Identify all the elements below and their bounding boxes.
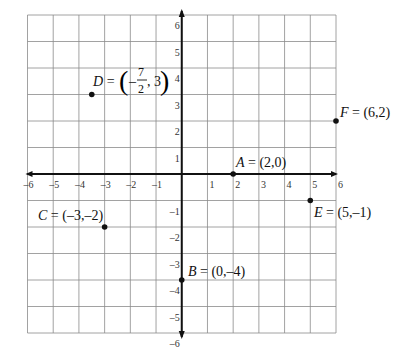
axes [26, 9, 339, 339]
y-tick-label: 3 [175, 100, 180, 111]
paren-close: ) [160, 65, 169, 96]
x-tick-label: –5 [48, 179, 59, 190]
y-tick-label: –6 [169, 338, 180, 349]
paren-open: ( [119, 65, 128, 96]
fraction-denominator: 2 [138, 82, 144, 96]
y-tick-label: 4 [175, 73, 180, 84]
label-point-f: F = (6,2) [339, 105, 391, 121]
y-tick-label: –3 [169, 259, 180, 270]
y-tick-label: –5 [169, 312, 180, 323]
point-a [230, 171, 236, 177]
x-tick-label: 2 [235, 179, 240, 190]
coordinate-plane: –6–5–4–3–2–1123456654321–1–2–3–4–5–6 A =… [0, 0, 407, 350]
x-tick-label: –1 [151, 179, 162, 190]
label-point-e: E = (5,–1) [313, 205, 372, 221]
y-axis-arrow-up-icon [179, 9, 185, 17]
x-axis-arrow-left-icon [26, 171, 33, 177]
x-tick-label: –6 [23, 179, 34, 190]
y-tick-label: 5 [175, 47, 180, 58]
label-point-c: C = (–3,–2) [38, 208, 103, 224]
y-tick-label: 2 [175, 126, 180, 137]
point-f [333, 118, 339, 124]
x-tick-label: –4 [74, 179, 85, 190]
x-tick-label: 5 [312, 179, 317, 190]
y-tick-label: 1 [175, 153, 180, 164]
y-value: , 3 [147, 74, 161, 89]
point-e [307, 198, 313, 204]
x-tick-label: 6 [338, 179, 343, 190]
y-tick-label: –1 [169, 206, 180, 217]
label-point-b: B = (0,–4) [188, 264, 246, 280]
label-point-a: A = (2,0) [235, 155, 287, 171]
point-c [102, 224, 108, 230]
point-d [89, 92, 95, 98]
x-tick-label: –3 [100, 179, 111, 190]
x-tick-label: 1 [209, 179, 214, 190]
x-tick-label: 4 [287, 179, 292, 190]
svg-text:D =: D = [92, 74, 115, 89]
y-tick-label: –4 [169, 285, 180, 296]
point-b [179, 277, 185, 283]
x-tick-label: 3 [261, 179, 266, 190]
y-tick-label: –2 [169, 232, 180, 243]
x-axis-arrow-right-icon [331, 171, 338, 177]
minus-sign: – [128, 74, 137, 89]
x-tick-label: –2 [125, 179, 136, 190]
y-tick-label: 6 [175, 20, 180, 31]
fraction-numerator: 7 [138, 65, 144, 79]
